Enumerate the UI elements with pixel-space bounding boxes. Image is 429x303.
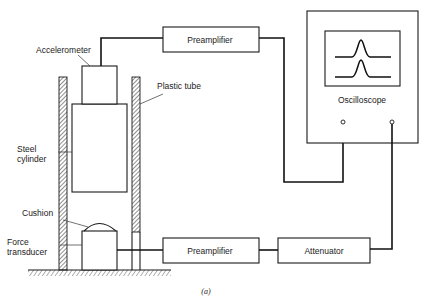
force-transducer-label-line2: transducer xyxy=(7,247,47,257)
ground xyxy=(28,270,171,276)
attenuator-label: Attenuator xyxy=(304,246,343,256)
steel-cylinder-label-line1: Steel xyxy=(17,144,36,154)
terminal-ch1 xyxy=(341,120,345,124)
preamplifier-bottom-label: Preamplifier xyxy=(187,246,233,256)
tube-wall-left xyxy=(59,77,67,270)
steel-cylinder xyxy=(72,104,127,192)
tube-wall-right xyxy=(132,77,140,232)
accelerometer-block xyxy=(82,66,117,104)
oscilloscope xyxy=(307,11,418,143)
wire-accel-to-preamp xyxy=(101,38,163,66)
preamplifier-top-label: Preamplifier xyxy=(187,35,233,45)
leader-plastic-tube xyxy=(140,94,163,104)
figure-caption: (a) xyxy=(201,287,211,296)
cushion-label: Cushion xyxy=(22,208,53,218)
leader-accelerometer xyxy=(78,55,90,66)
force-transducer-label-line1: Force xyxy=(7,237,29,247)
measurement-setup-diagram: Preamplifier Preamplifier Attenuator Osc… xyxy=(0,0,429,303)
plastic-tube-label: Plastic tube xyxy=(157,81,201,91)
cushion-dome xyxy=(84,224,116,232)
force-transducer-block xyxy=(82,231,117,270)
accelerometer-label: Accelerometer xyxy=(36,45,91,55)
steel-cylinder-label-line2: cylinder xyxy=(17,154,46,164)
oscilloscope-label: Oscilloscope xyxy=(338,95,386,105)
terminal-ch2 xyxy=(390,120,394,124)
